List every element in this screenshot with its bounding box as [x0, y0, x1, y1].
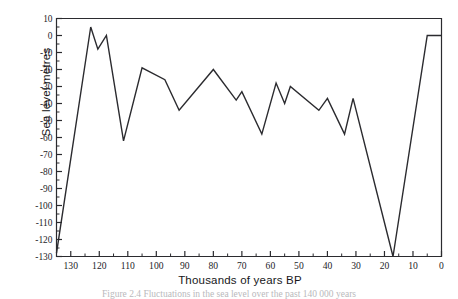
x-tick-label: 20: [380, 260, 390, 271]
x-tick-label: 110: [121, 260, 135, 271]
x-tick-label: 90: [180, 260, 190, 271]
y-tick-label: -120: [35, 235, 52, 245]
x-tick-label: 10: [408, 260, 418, 271]
x-tick-label: 80: [209, 260, 219, 271]
x-tick-label: 120: [92, 260, 107, 271]
x-tick-label: 50: [294, 260, 304, 271]
figure-caption: Figure 2.4 Fluctuations in the sea level…: [0, 289, 458, 299]
x-tick-label: 100: [149, 260, 164, 271]
chart-background: [0, 0, 458, 299]
x-tick-label: 60: [266, 260, 276, 271]
x-tick-label: 30: [351, 260, 361, 271]
x-tick-label: 40: [323, 260, 333, 271]
x-tick-label: 70: [237, 260, 247, 271]
y-tick-label: -130: [35, 252, 52, 262]
sea-level-line-chart: 100-10-20-30-40-50-60-70-80-90-100-110-1…: [0, 0, 458, 299]
y-tick-label: -100: [35, 201, 52, 211]
y-tick-label: -110: [36, 218, 53, 228]
x-tick-label: 130: [64, 260, 79, 271]
x-axis-title: Thousands of years BP: [130, 274, 350, 286]
x-tick-label: 0: [439, 260, 444, 271]
y-axis-title: Sea level metres: [40, 2, 52, 182]
figure-sea-level: 100-10-20-30-40-50-60-70-80-90-100-110-1…: [0, 0, 458, 299]
y-tick-label: -90: [40, 184, 53, 194]
